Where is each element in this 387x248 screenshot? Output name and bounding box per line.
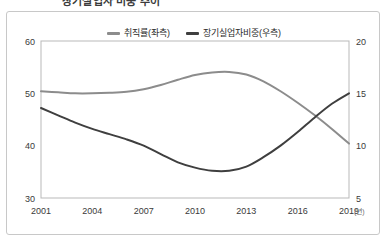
x-axis-tick-2004: 2004 (82, 206, 102, 216)
left-axis-tick-30: 30 (25, 194, 35, 204)
page-title: 장기실업자 비중 추이 (62, 0, 160, 8)
plot-frame (41, 41, 349, 198)
x-axis-unit-label: (년) (354, 207, 365, 216)
chart-plot-svg: 30405060 5101520 20012004200720102013201… (7, 12, 381, 236)
left-axis-ticks: 30405060 (25, 37, 35, 204)
right-axis-tick-20: 20 (356, 37, 366, 47)
right-axis-tick-10: 10 (356, 141, 366, 151)
x-axis-tick-2007: 2007 (134, 206, 154, 216)
right-axis-ticks: 5101520 (356, 37, 366, 204)
left-axis-tick-60: 60 (25, 37, 35, 47)
chart-screenshot: 장기실업자 비중 추이 취직률(좌측) 장기실업자비중(우측) 30405060… (0, 0, 387, 248)
left-axis-tick-40: 40 (25, 141, 35, 151)
chart-card: 취직률(좌측) 장기실업자비중(우측) 30405060 5101520 200… (6, 11, 380, 235)
cropped-title-strip: 장기실업자 비중 추이 (0, 0, 387, 11)
right-axis-tick-5: 5 (356, 194, 361, 204)
left-axis-tick-50: 50 (25, 89, 35, 99)
right-axis-tick-15: 15 (356, 89, 366, 99)
x-axis-tick-2016: 2016 (288, 206, 308, 216)
x-axis-tick-2001: 2001 (31, 206, 51, 216)
x-axis-ticks: 2001200420072010201320162019 (31, 206, 359, 216)
x-axis-tick-2010: 2010 (185, 206, 205, 216)
plot-area: 30405060 5101520 20012004200720102013201… (7, 12, 381, 236)
x-axis-tick-2013: 2013 (236, 206, 256, 216)
